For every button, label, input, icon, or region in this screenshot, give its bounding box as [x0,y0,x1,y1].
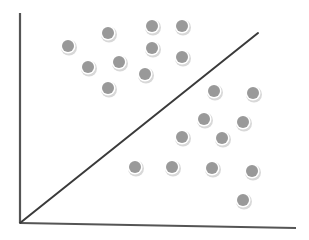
decision-boundary-line [20,33,258,223]
data-point-below [246,86,263,103]
data-point-below [207,84,224,101]
data-points [61,19,263,210]
data-point-below [197,112,214,129]
scatter-diagram [0,0,309,240]
data-point-below [236,115,253,132]
data-point-above [61,39,78,56]
data-point-above [101,81,118,98]
data-point-below [245,164,262,181]
data-point-below [128,160,145,177]
boundary-line [20,33,258,223]
data-point-above [175,50,192,67]
data-point-below [205,161,222,178]
data-point-above [175,19,192,36]
data-point-above [138,67,155,84]
data-point-above [101,26,118,43]
x-axis [20,223,296,228]
data-point-below [165,160,182,177]
data-point-below [175,130,192,147]
data-point-above [145,19,162,36]
data-point-below [215,131,232,148]
data-point-above [112,55,129,72]
data-point-above [145,41,162,58]
data-point-above [81,60,98,77]
data-point-below [236,193,253,210]
